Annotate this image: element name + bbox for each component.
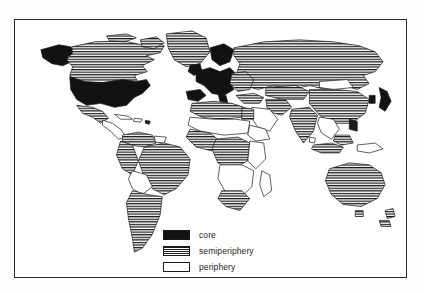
region-arctic-islands <box>107 34 137 42</box>
region-central-asia <box>266 85 310 99</box>
region-indonesia <box>311 143 343 153</box>
region-japan <box>379 87 391 111</box>
region-russia <box>234 40 383 90</box>
region-borneo <box>333 135 353 145</box>
region-north-africa <box>190 101 244 119</box>
region-peru-ecuador <box>116 141 138 175</box>
legend-item-semiperiphery: semiperiphery <box>163 243 313 258</box>
region-antilles <box>145 120 150 124</box>
landmasses <box>41 31 395 252</box>
region-iberia <box>186 89 206 101</box>
region-turkey-caucasus <box>236 93 264 103</box>
legend-label-core: core <box>199 230 216 240</box>
region-philippines <box>349 119 357 131</box>
legend-swatch-core <box>163 230 190 240</box>
region-china <box>309 89 369 123</box>
region-central-africa <box>212 137 250 169</box>
region-chile-argentina <box>126 191 162 253</box>
legend: core semiperiphery periphery <box>163 227 313 273</box>
region-mongolia <box>319 80 353 90</box>
region-south-africa <box>218 191 250 211</box>
region-new-zealand-south <box>379 220 391 226</box>
region-guyana <box>154 136 166 143</box>
region-united-states <box>70 77 151 108</box>
region-hispaniola <box>133 118 142 122</box>
region-new-guinea <box>357 143 383 153</box>
legend-swatch-periphery <box>163 262 190 272</box>
legend-label-semiperiphery: semiperiphery <box>199 246 254 256</box>
map-figure: core semiperiphery periphery <box>14 19 407 278</box>
region-new-zealand <box>385 209 395 219</box>
legend-label-periphery: periphery <box>199 262 235 272</box>
region-egypt <box>242 107 254 119</box>
region-cuba <box>114 114 132 119</box>
legend-item-periphery: periphery <box>163 259 313 274</box>
region-sri-lanka <box>309 137 315 143</box>
legend-item-core: core <box>163 227 313 242</box>
region-madagascar <box>260 171 272 197</box>
region-tasmania <box>355 211 363 217</box>
region-greenland <box>166 31 210 67</box>
region-scandinavia <box>210 44 234 66</box>
region-australia <box>325 163 385 207</box>
legend-swatch-semiperiphery <box>163 246 190 256</box>
region-east-africa <box>248 141 266 169</box>
region-korea <box>369 95 375 103</box>
